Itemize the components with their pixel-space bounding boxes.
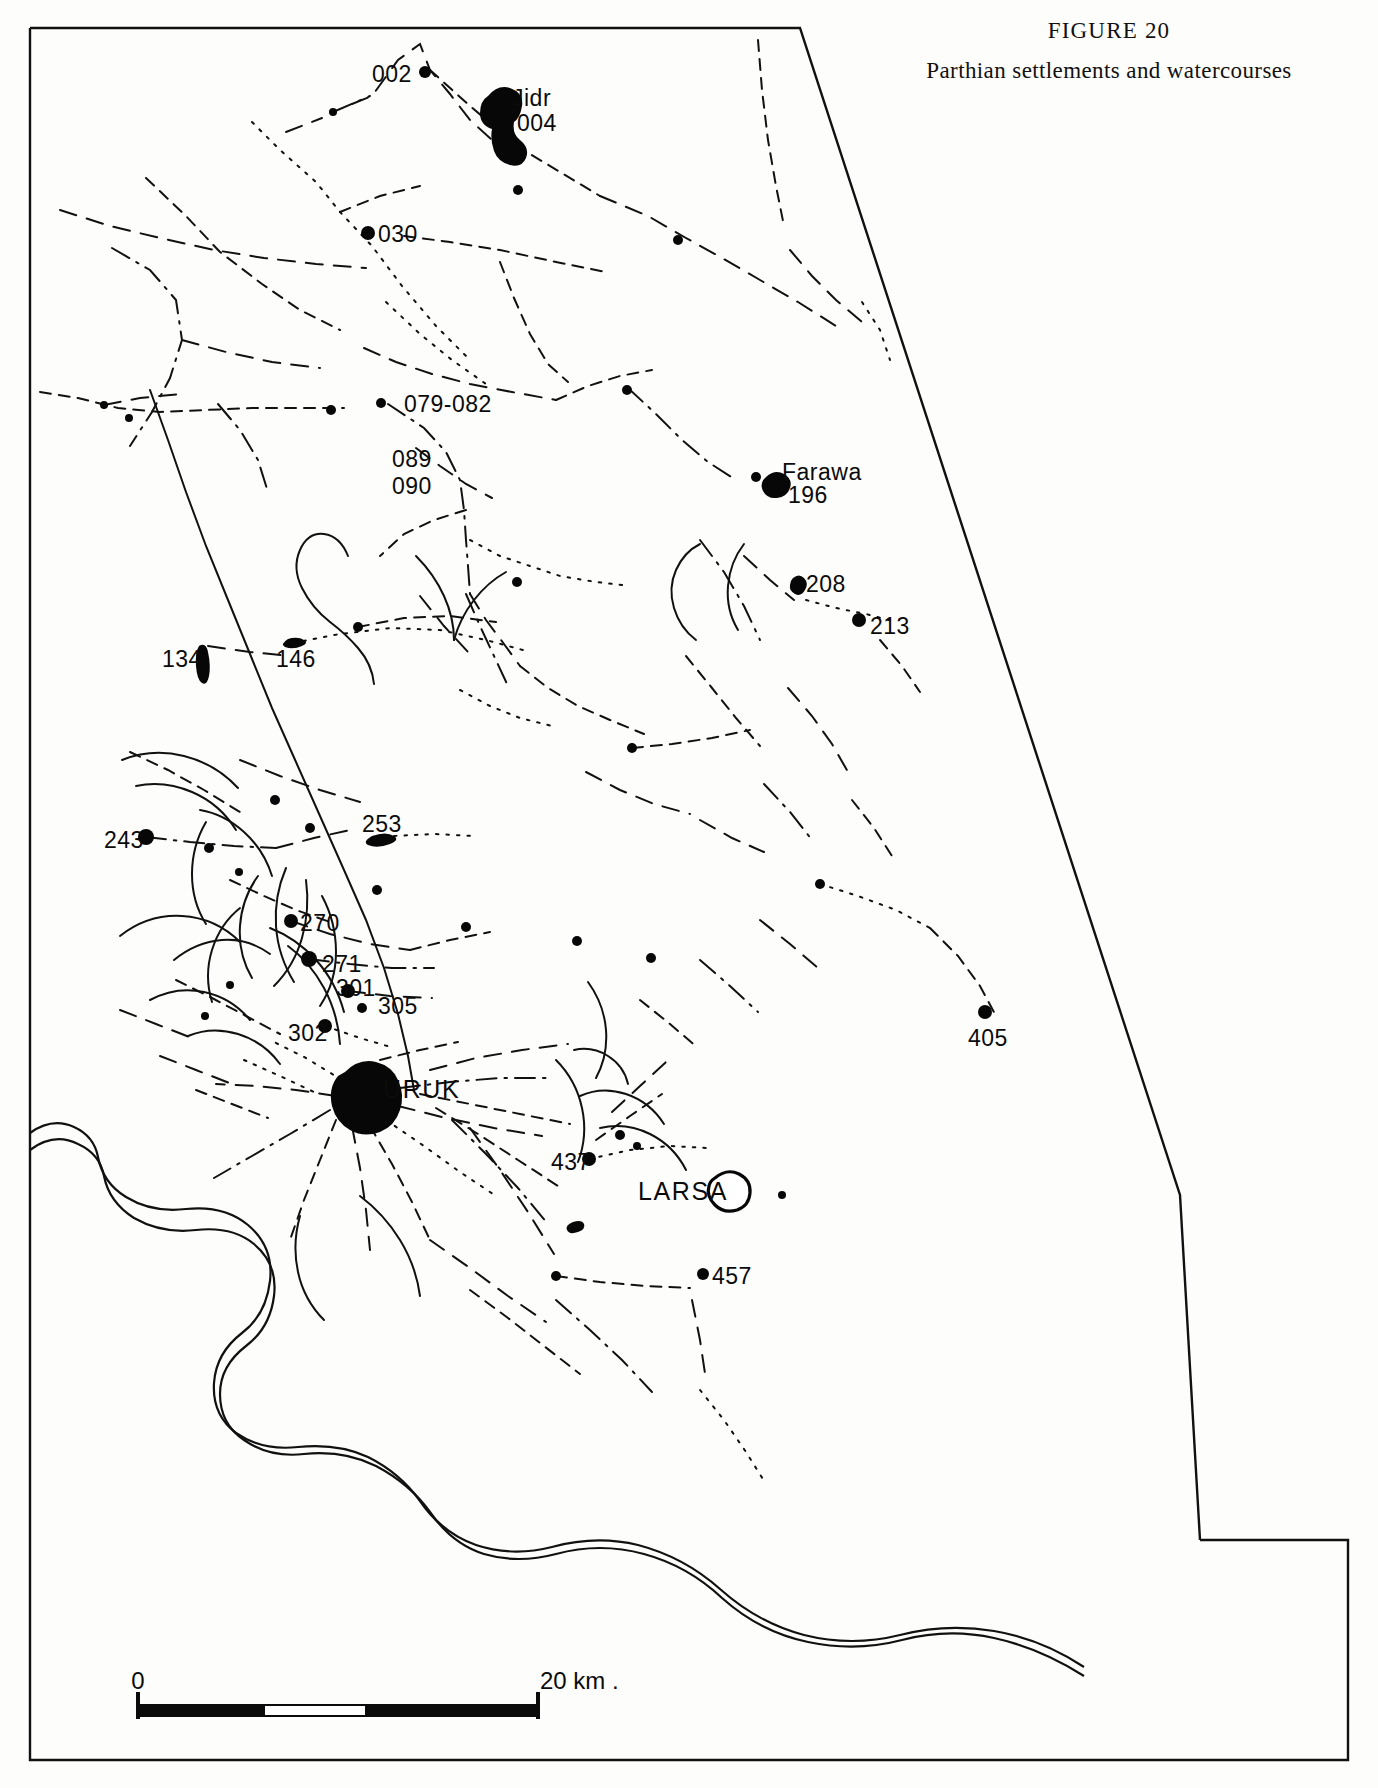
watercourse-solid — [136, 784, 236, 830]
settlement-dot — [633, 1142, 641, 1150]
scale-bar-tick-start — [136, 1692, 140, 1719]
settlement-dot — [551, 1271, 561, 1281]
watercourse-dashed — [764, 784, 812, 840]
watercourse-solid — [188, 1030, 280, 1064]
watercourse-solid — [192, 822, 206, 924]
watercourse-dashed — [104, 394, 180, 405]
watercourse-dashed — [290, 1120, 336, 1240]
watercourse-dashed — [240, 760, 360, 802]
watercourse-dashed — [880, 640, 920, 692]
site-label-089: 089 — [392, 446, 432, 472]
site-label-030: 030 — [378, 221, 418, 247]
watercourse-dashed — [340, 186, 420, 212]
watercourse-dashed — [244, 1060, 314, 1092]
scale-bar-white-segment — [265, 1706, 365, 1715]
watercourse-dashed — [470, 1128, 554, 1254]
watercourse-dashed — [686, 656, 760, 746]
watercourse-dashed — [760, 920, 818, 968]
settlement-dot — [615, 1130, 625, 1140]
watercourse-dashed — [394, 834, 474, 836]
settlement-dot — [353, 622, 363, 632]
site-label-146: 146 — [276, 646, 316, 672]
settlement-dot — [305, 823, 315, 833]
watercourse-dashed — [700, 1390, 766, 1484]
watercourse-dashed — [130, 752, 240, 812]
site-label-437: 437 — [551, 1149, 591, 1175]
settlement-dot — [461, 922, 471, 932]
settlement-dot — [697, 1268, 709, 1280]
watercourse-dashed — [196, 1090, 268, 1118]
watercourse-dashed — [270, 1040, 342, 1080]
watercourse-dashed — [380, 510, 466, 556]
settlement-dot — [204, 843, 214, 853]
map-boundary — [30, 28, 1348, 1760]
settlement-dot — [235, 868, 243, 876]
watercourse-dashed — [430, 1044, 568, 1070]
watercourse-dashed — [692, 1300, 706, 1380]
settlement-dot — [361, 226, 375, 240]
watercourse-dashed — [40, 392, 344, 412]
watercourse-dashed — [470, 1290, 580, 1374]
settlement-dot — [815, 879, 825, 889]
watercourse-dashed — [398, 1106, 542, 1136]
settlement-dot — [329, 108, 337, 116]
settlement-dot — [646, 953, 656, 963]
site-label-134: 134 — [162, 646, 202, 672]
figure-root: FIGURE 20 Parthian settlements and water… — [0, 0, 1378, 1788]
watercourse-dashed — [182, 340, 320, 368]
watercourse-dashed — [430, 1240, 546, 1322]
watercourse-dashed — [436, 1108, 558, 1186]
settlement-dot — [125, 414, 133, 422]
watercourse-dashed — [420, 596, 468, 652]
settlement-dot — [673, 235, 683, 245]
watercourse-dashed — [325, 1026, 394, 1048]
settlement-dot — [751, 472, 761, 482]
watercourse-solid — [295, 1216, 324, 1320]
site-label-271: 271 — [322, 951, 362, 977]
river-layer — [30, 1123, 1084, 1676]
watercourse-dashed — [410, 932, 490, 950]
watercourse-solid — [556, 1060, 584, 1162]
site-label-243: 243 — [104, 827, 144, 853]
watercourse-dashed — [60, 210, 366, 268]
watercourse-dashed — [352, 44, 492, 140]
scale-bar-tick-end — [536, 1692, 540, 1719]
watercourse-dashed — [286, 118, 322, 132]
site-label-196: 196 — [788, 482, 828, 508]
site-label-305: 305 — [378, 993, 418, 1019]
settlement-dot — [201, 1012, 209, 1020]
settlement-mound — [567, 1221, 585, 1233]
site-label-270: 270 — [300, 910, 340, 936]
watercourse-dashed — [632, 730, 750, 748]
watercourse-solid — [174, 940, 270, 960]
watercourse-solid — [150, 990, 250, 1020]
site-label-208: 208 — [806, 571, 846, 597]
watercourse-dashed — [930, 928, 996, 1016]
river-channel-line — [30, 1123, 1084, 1667]
watercourse-dashed — [586, 772, 690, 814]
watercourse-dashed — [218, 404, 268, 492]
watercourse-dashed — [160, 1056, 232, 1084]
watercourse-solid — [728, 544, 744, 630]
watercourse-dashed-layer — [40, 40, 996, 1484]
settlement-dot — [778, 1191, 786, 1199]
watercourse-solid — [671, 544, 700, 640]
watercourse-dashed — [452, 1120, 548, 1224]
watercourse-dashed — [276, 830, 350, 848]
watercourse-dashed — [520, 666, 644, 734]
site-label-jidr: Jidr — [512, 85, 551, 111]
site-label-302: 302 — [288, 1020, 328, 1046]
scale-bar-left-label: 0 — [131, 1667, 144, 1694]
settlement-dot — [978, 1005, 992, 1019]
map-border-outline — [30, 28, 1348, 1760]
site-label-004: 004 — [517, 110, 557, 136]
site-label-213: 213 — [870, 613, 910, 639]
watercourse-dashed — [640, 1000, 698, 1048]
watercourse-dashed — [700, 820, 764, 852]
watercourse-dashed — [700, 540, 760, 640]
watercourse-dashed — [500, 262, 568, 382]
watercourse-dashed — [556, 1276, 690, 1288]
watercourse-dashed — [214, 1110, 330, 1178]
settlement-dot — [419, 66, 431, 78]
watercourse-dashed — [862, 302, 890, 360]
